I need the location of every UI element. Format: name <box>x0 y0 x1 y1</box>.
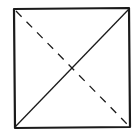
square-diagonals-diagram <box>0 0 138 139</box>
